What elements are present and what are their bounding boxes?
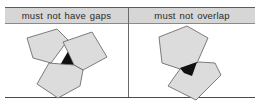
pentagon-left: [27, 29, 68, 63]
pentagon-bottom: [37, 63, 83, 98]
illustrations: [0, 0, 259, 105]
gaps-illustration: [27, 29, 107, 98]
overlap-illustration: [159, 26, 221, 100]
